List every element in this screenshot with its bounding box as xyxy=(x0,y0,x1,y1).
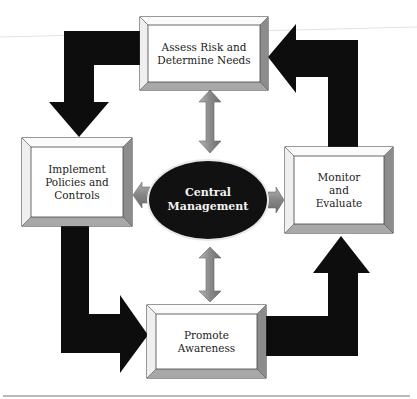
diagram-canvas: Central Management xyxy=(0,0,417,399)
node-assess-label: Assess Risk and Determine Needs xyxy=(148,25,260,82)
node-promote-label: Promote Awareness xyxy=(156,314,257,369)
node-monitor-label: Monitor and Evaluate xyxy=(294,156,384,224)
node-implement-label: Implement Policies and Controls xyxy=(31,147,123,217)
